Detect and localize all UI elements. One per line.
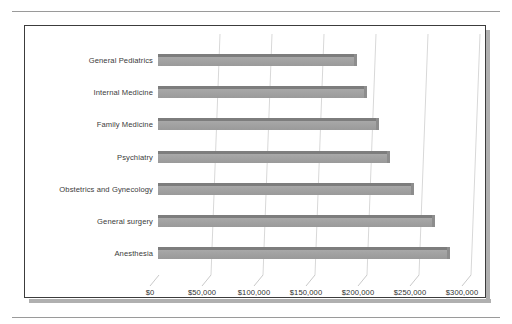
x-axis-tick-label: $100,000 xyxy=(238,288,270,297)
bottom-divider-rule xyxy=(12,317,500,318)
x-axis-tick-label: $0 xyxy=(146,288,155,297)
plot-area: General PediatricsInternal MedicineFamil… xyxy=(25,26,487,299)
x-axis-tick-labels-group: $0$50,000$100,000$150,000$200,000$250,00… xyxy=(25,26,487,299)
chart-figure-frame: General PediatricsInternal MedicineFamil… xyxy=(24,25,486,298)
x-axis-tick-label: $150,000 xyxy=(290,288,322,297)
top-divider-rule xyxy=(12,11,500,12)
x-axis-tick-label: $50,000 xyxy=(188,288,216,297)
x-axis-tick-label: $200,000 xyxy=(342,288,374,297)
frame-drop-shadow-bottom xyxy=(29,299,491,303)
x-axis-tick-label: $250,000 xyxy=(394,288,426,297)
figure-page: General PediatricsInternal MedicineFamil… xyxy=(0,0,512,324)
x-axis-tick-label: $300,000 xyxy=(446,288,478,297)
